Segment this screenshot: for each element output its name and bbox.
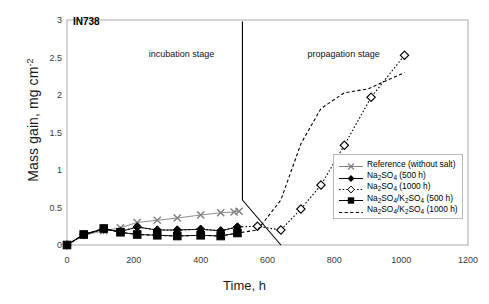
legend-label: Na2SO4/K2SO4 (1000 h) [365,204,458,214]
plot-canvas [0,0,489,304]
legend-item[interactable]: Na2SO4/K2SO4 (500 h) [337,192,458,203]
legend-marker-diamond-filled-solid-icon [337,170,365,181]
legend-marker-dashed-only-icon [337,204,365,215]
legend-item[interactable]: Na2SO4 (500 h) [337,169,458,180]
legend-label: Na2SO4 (500 h) [365,170,426,180]
legend-item[interactable]: Na2SO4/K2SO4 (1000 h) [337,204,458,215]
plot-title: IN738 [73,16,100,27]
legend-label: Reference (without salt) [365,159,455,169]
series-line-0 [67,211,239,245]
data-point-2-14 [340,141,348,149]
legend-label: Na2SO4/K2SO4 (500 h) [365,193,453,203]
legend-item[interactable]: Reference (without salt) [337,158,458,169]
legend-marker-diamond-open-dotted-icon [337,181,365,192]
chart-figure: Mass gain, mg cm-2 Time, h 00.511.522.53… [0,0,489,304]
data-point-2-15 [367,93,375,101]
plot-title-text: IN738 [73,16,100,27]
legend-label: Na2SO4 (1000 h) [365,181,430,191]
legend-marker-square-filled-solid-icon [337,192,365,203]
propagation-stage-label: propagation stage [308,49,380,59]
legend-item[interactable]: Na2SO4 (1000 h) [337,181,458,192]
series-line-3 [67,229,237,246]
data-point-2-16 [400,51,408,59]
incubation-stage-label: incubation stage [149,49,215,59]
chart-legend: Reference (without salt)Na2SO4 (500 h)Na… [333,154,463,219]
data-point-2-13 [317,181,325,189]
data-point-1-4 [133,223,141,231]
legend-marker-cross-solid-gray-icon [337,158,365,169]
